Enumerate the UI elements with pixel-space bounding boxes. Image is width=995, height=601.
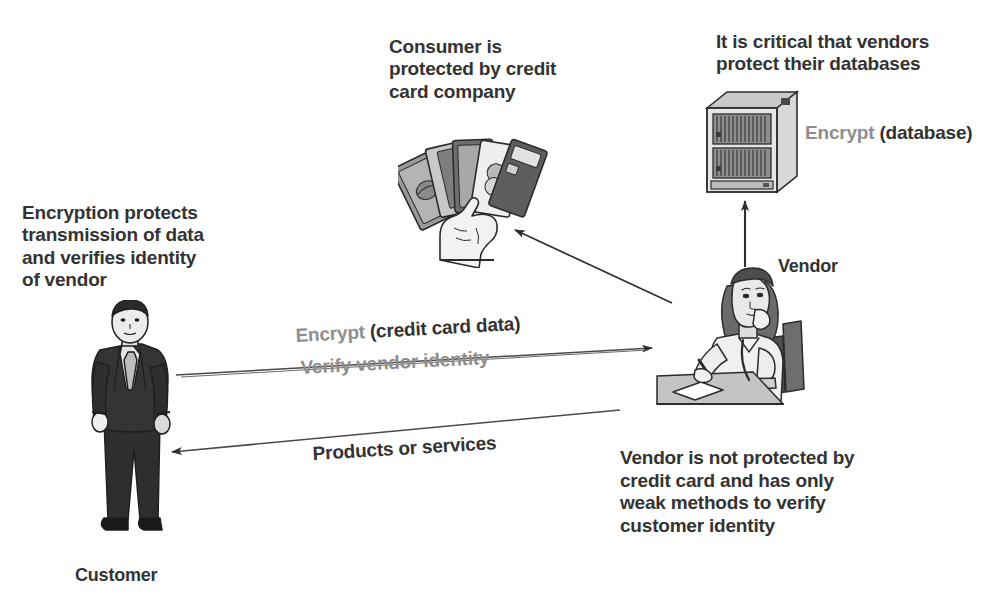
annotation-vendor-not-protected-emphasis: not [709,447,738,468]
label-encrypt-database-target: (database) [874,122,972,143]
label-encrypt-database: Encrypt (database) [805,122,972,144]
annotation-vendor-databases: It is critical that vendors protect thei… [716,31,976,76]
label-encrypt-database-keyword: Encrypt [805,122,874,143]
customer-illustration [78,300,188,555]
annotation-vendor-not-protected-pre: Vendor is [620,447,709,468]
label-customer: Customer [75,565,157,586]
diagram-canvas: Consumer is protected by credit card com… [0,0,995,601]
annotation-consumer-protection: Consumer is protected by credit card com… [389,36,609,103]
annotation-vendor-not-protected: Vendor is not protected by credit card a… [620,425,885,537]
label-encrypt-credit-card-keyword: Encrypt [295,321,365,346]
annotation-encryption-protects: Encryption protects transmission of data… [22,202,232,292]
label-vendor: Vendor [778,256,838,277]
credit-cards-hand-illustration [398,128,548,268]
database-server-illustration [697,88,809,206]
